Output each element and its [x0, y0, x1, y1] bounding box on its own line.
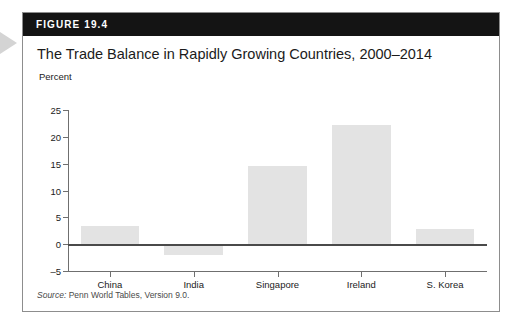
x-tick-label: S. Korea: [427, 279, 464, 290]
x-tick: [445, 271, 446, 277]
x-tick-label: Singapore: [256, 279, 299, 290]
source-text: Penn World Tables, Version 9.0.: [69, 290, 190, 300]
figure-title: The Trade Balance in Rapidly Growing Cou…: [37, 46, 432, 62]
bar: [416, 229, 475, 244]
y-axis-tick-labels: 2520151050–5: [31, 71, 61, 281]
zero-baseline: [68, 244, 487, 245]
bar: [332, 125, 391, 244]
x-tick: [194, 271, 195, 277]
x-tick-label: China: [97, 279, 122, 290]
y-tick-label: 20: [37, 131, 61, 142]
x-tick: [361, 271, 362, 277]
margin-pointer-icon: [0, 32, 17, 54]
bars-group: [68, 110, 487, 271]
source-note: Source: Penn World Tables, Version 9.0.: [37, 290, 189, 300]
y-tick-label: –5: [37, 266, 61, 277]
figure-header-bar: FIGURE 19.4: [23, 13, 499, 36]
x-tick-label: Ireland: [347, 279, 376, 290]
figure-card: FIGURE 19.4 The Trade Balance in Rapidly…: [22, 12, 500, 312]
bar: [81, 226, 140, 244]
bar: [248, 166, 307, 244]
figure-number-label: FIGURE 19.4: [23, 19, 108, 30]
x-tick: [278, 271, 279, 277]
y-tick-label: 25: [37, 105, 61, 116]
y-tick-label: 0: [37, 239, 61, 250]
y-tick-label: 15: [37, 158, 61, 169]
bar: [164, 244, 223, 255]
bar-chart: Percent 2520151050–5 ChinaIndiaSingapore…: [23, 71, 501, 281]
x-tick-label: India: [183, 279, 204, 290]
source-label: Source:: [37, 290, 66, 300]
y-tick-label: 10: [37, 185, 61, 196]
y-tick-label: 5: [37, 212, 61, 223]
x-tick: [110, 271, 111, 277]
